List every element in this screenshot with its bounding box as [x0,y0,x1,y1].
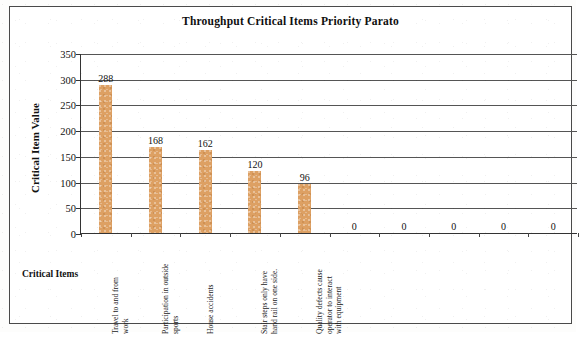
category-label-line: operator to interact [324,238,334,334]
bar [99,85,112,233]
category-label-line: sports [171,238,181,334]
data-value-label: 120 [235,159,275,170]
y-axis-tick-label: 300 [60,74,76,85]
x-axis-tick-mark [479,233,480,237]
data-value-label: 0 [434,221,474,232]
y-axis-title-label: Critical Item Value [29,103,41,193]
bar [199,150,212,233]
x-axis-tick-mark [528,233,529,237]
gridline [81,80,577,81]
x-axis-category-label: Stair steps only havehand rail on one si… [260,238,279,334]
plot-area: 2881681621209600000 [80,54,577,234]
x-axis-category-labels: Travel to and fromworkParticipation in o… [80,238,577,338]
y-axis-tick-mark [76,105,81,106]
chart-title: Throughput Critical Items Priority Parat… [10,15,571,27]
y-axis-tick-mark [76,54,81,55]
category-label-line: work [121,238,131,334]
category-label-line: Travel to and from [111,238,121,334]
x-axis-tick-mark [280,233,281,237]
category-label-line: Stair steps only have [260,238,270,334]
x-axis-tick-mark [379,233,380,237]
gridline [81,105,577,106]
y-axis-tick-label: 250 [60,100,76,111]
data-value-label: 168 [136,135,176,146]
gridline [81,131,577,132]
gridline [81,54,577,55]
y-axis-tick-labels: 350300250200150100500 [44,54,76,234]
y-axis-tick-label: 150 [60,151,76,162]
x-axis-title: Critical Items [22,269,78,279]
x-axis-tick-mark [131,233,132,237]
chart-frame: Throughput Critical Items Priority Parat… [9,6,572,324]
y-axis-tick-label: 50 [66,203,77,214]
data-value-label: 288 [86,73,126,84]
bar [298,184,311,233]
y-axis-tick-label: 100 [60,177,76,188]
data-value-label: 0 [483,221,523,232]
category-label-line: House accidents [206,238,216,334]
data-value-label: 96 [285,172,325,183]
x-axis-category-label: Quality defects causeoperator to interac… [315,238,344,334]
x-axis-category-label: House accidents [206,238,216,334]
y-axis-tick-mark [76,183,81,184]
bar [149,147,162,233]
y-axis-title: Critical Item Value [27,63,43,233]
data-value-label: 0 [384,221,424,232]
x-axis-category-label: Participation in outsidesports [161,238,180,334]
data-value-label: 162 [185,138,225,149]
x-axis-tick-mark [180,233,181,237]
y-axis-tick-mark [76,157,81,158]
data-value-label: 0 [334,221,374,232]
y-axis-tick-label: 200 [60,126,76,137]
x-axis-tick-mark [429,233,430,237]
y-axis-tick-label: 350 [60,49,76,60]
x-axis-tick-mark [330,233,331,237]
category-label-line: Quality defects cause [315,238,325,334]
y-axis-tick-mark [76,131,81,132]
x-axis-category-label: Travel to and fromwork [111,238,130,334]
y-axis-tick-mark [76,208,81,209]
category-label-line: Participation in outside [161,238,171,334]
data-value-label: 0 [533,221,573,232]
x-axis-tick-mark [81,233,82,237]
x-axis-tick-mark [230,233,231,237]
y-axis-tick-mark [76,80,81,81]
category-label-line: with equipment [334,238,344,334]
bar [248,171,261,233]
category-label-line: hand rail on one side. [270,238,280,334]
